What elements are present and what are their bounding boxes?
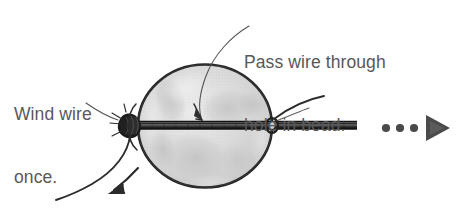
diagram-canvas: Wind wire once. Pass wire through hole i… (0, 0, 462, 216)
next-step-indicator[interactable] (382, 115, 450, 141)
wire-coil-knot-left (110, 104, 141, 150)
annotation-wind-wire-line2: once. (14, 167, 92, 188)
step-dot-2 (396, 124, 404, 132)
annotation-pass-wire-line1: Pass wire through (244, 52, 386, 73)
annotation-pass-wire-line2: hole in bead. (244, 115, 386, 136)
annotation-wind-wire: Wind wire once. (14, 62, 92, 216)
annotation-wind-wire-line1: Wind wire (14, 104, 92, 125)
annotation-pass-wire: Pass wire through hole in bead. (244, 10, 386, 178)
step-dot-3 (410, 124, 418, 132)
